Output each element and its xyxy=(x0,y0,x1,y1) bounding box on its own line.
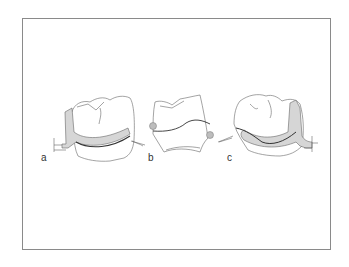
dental-clasp-illustration xyxy=(0,0,349,267)
panel-a-tooth xyxy=(72,96,143,161)
panel-b-survey-line xyxy=(150,120,214,138)
panel-label-a: a xyxy=(41,153,47,163)
panel-a-clasp xyxy=(54,108,130,152)
panel-c-clasp xyxy=(236,100,318,152)
panel-b-tooth xyxy=(131,95,232,152)
panel-label-b: b xyxy=(148,153,154,163)
panel-label-c: c xyxy=(227,153,232,163)
